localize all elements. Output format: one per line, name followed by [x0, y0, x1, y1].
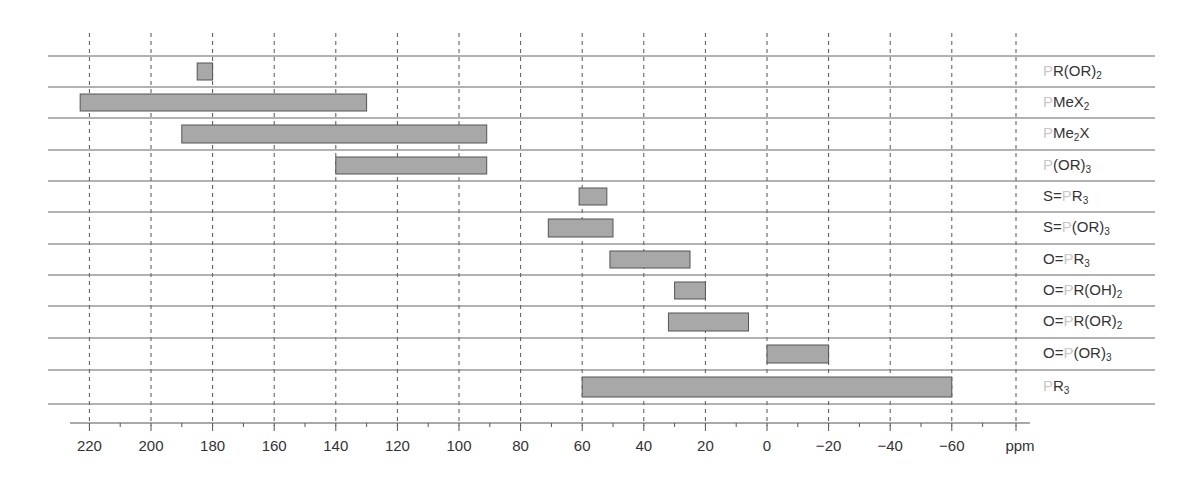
compound-label: PR3 — [1043, 377, 1069, 395]
compound-label: O=PR(OR)2 — [1043, 312, 1122, 330]
phosphorus-atom: P — [1043, 93, 1053, 110]
x-axis — [70, 423, 1030, 431]
range-bar — [668, 313, 748, 331]
range-bar — [582, 377, 952, 397]
x-tick-label: 200 — [138, 437, 163, 454]
x-tick-label: −40 — [877, 437, 902, 454]
range-bar — [80, 94, 366, 111]
range-bar — [197, 63, 212, 80]
range-bar — [548, 219, 613, 237]
x-tick-label: 180 — [200, 437, 225, 454]
x-tick-label: 80 — [512, 437, 529, 454]
x-tick-label: 20 — [697, 437, 714, 454]
range-bar — [579, 188, 607, 205]
phosphorus-atom: P — [1043, 124, 1053, 141]
x-tick-label: 140 — [323, 437, 348, 454]
x-tick-label: 220 — [77, 437, 102, 454]
phosphorus-atom: P — [1063, 312, 1073, 329]
compound-label: O=PR(OH)2 — [1043, 281, 1122, 299]
x-tick-label: 120 — [385, 437, 410, 454]
x-tick-label: −20 — [816, 437, 841, 454]
compound-label: P(OR)3 — [1043, 156, 1091, 174]
phosphorus-atom: P — [1063, 344, 1073, 361]
range-bar — [767, 345, 829, 363]
range-bars — [80, 63, 952, 397]
range-bar — [610, 251, 690, 268]
phosphorus-atom: P — [1063, 281, 1073, 298]
range-bar — [675, 282, 706, 299]
compound-label: O=PR3 — [1043, 250, 1090, 268]
x-tick-label: 100 — [446, 437, 471, 454]
compound-label: PMe2X — [1043, 124, 1089, 142]
compound-label: PR(OR)2 — [1043, 62, 1102, 80]
compound-label: PMeX2 — [1043, 93, 1089, 111]
compound-label: S=PR3 — [1043, 187, 1088, 205]
compound-label: S=P(OR)3 — [1043, 218, 1110, 236]
x-tick-label: 0 — [763, 437, 771, 454]
x-tick-label: −60 — [939, 437, 964, 454]
x-tick-label: 160 — [262, 437, 287, 454]
x-tick-label: 40 — [635, 437, 652, 454]
phosphorus-atom: P — [1043, 62, 1053, 79]
compound-label: O=P(OR)3 — [1043, 344, 1112, 362]
phosphorus-atom: P — [1063, 250, 1073, 267]
range-bar — [336, 157, 487, 174]
x-axis-unit-label: ppm — [1005, 437, 1034, 454]
phosphorus-atom: P — [1062, 187, 1072, 204]
range-bar — [182, 125, 487, 143]
phosphorus-atom: P — [1043, 377, 1053, 394]
phosphorus-atom: P — [1062, 218, 1072, 235]
phosphorus-atom: P — [1043, 156, 1053, 173]
x-tick-label: 60 — [574, 437, 591, 454]
chemical-shift-chart — [0, 0, 1193, 486]
